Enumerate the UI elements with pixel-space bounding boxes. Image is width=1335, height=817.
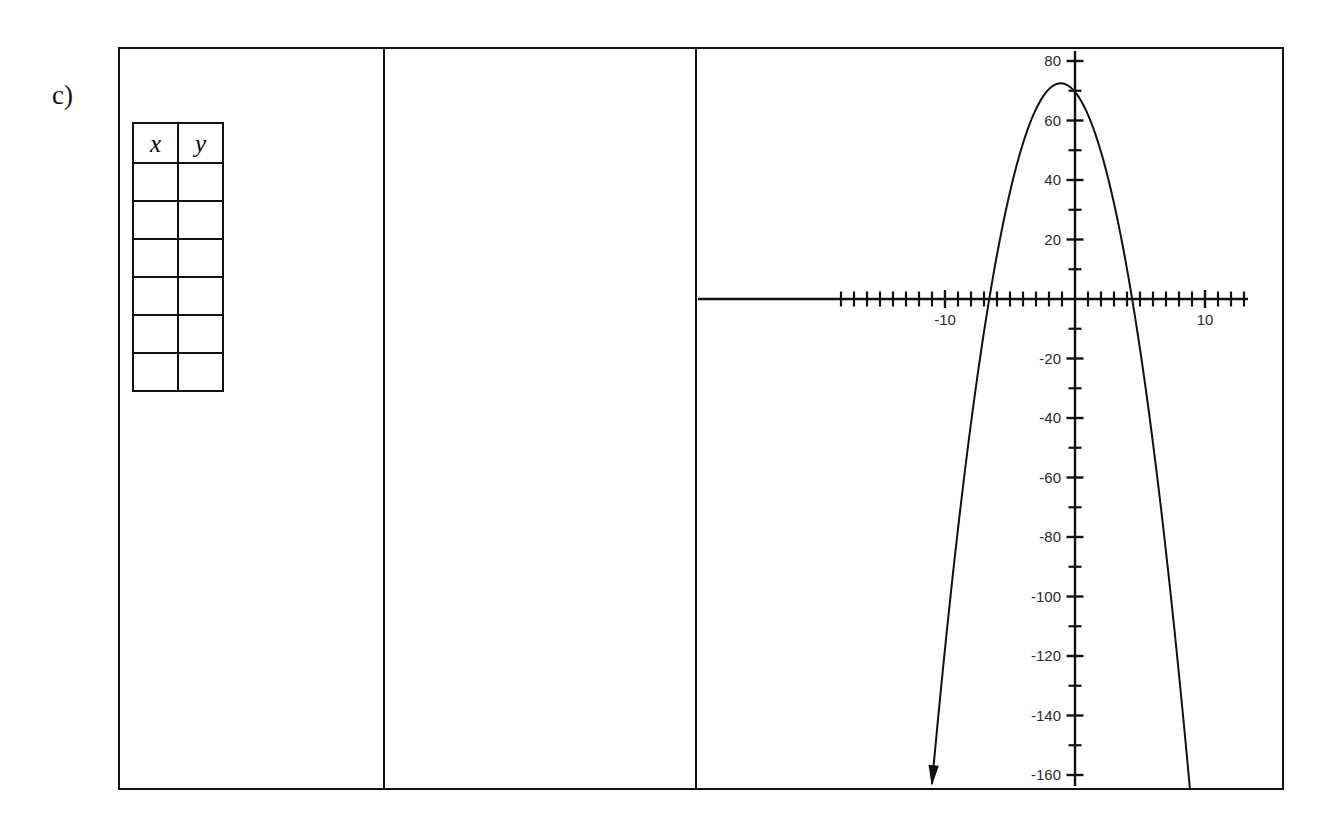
parabola-path xyxy=(932,83,1193,788)
y-tick-label: 80 xyxy=(1044,52,1061,69)
axes-group xyxy=(698,51,1248,786)
y-tick-label: -80 xyxy=(1039,528,1061,545)
work-area-frame: x y xyxy=(118,47,1284,790)
parabola-graph: -101020 80604020-20-40-60-80-100-120-140… xyxy=(697,49,1284,788)
curve-arrow-icon xyxy=(929,765,939,786)
table-cell-x[interactable] xyxy=(133,201,178,239)
x-tick-label: 10 xyxy=(1197,311,1214,328)
y-tick-label: -140 xyxy=(1031,707,1061,724)
table-cell-x[interactable] xyxy=(133,239,178,277)
table-cell-y[interactable] xyxy=(178,315,223,353)
table-panel: x y xyxy=(120,49,383,788)
y-tick-label: -100 xyxy=(1031,588,1061,605)
y-tick-label: -60 xyxy=(1039,469,1061,486)
table-row[interactable] xyxy=(133,201,223,239)
table-cell-x[interactable] xyxy=(133,277,178,315)
parabola-curve xyxy=(929,83,1194,788)
table-cell-y[interactable] xyxy=(178,239,223,277)
xy-value-table[interactable]: x y xyxy=(132,122,224,392)
problem-label: c) xyxy=(52,82,73,109)
table-cell-x[interactable] xyxy=(133,315,178,353)
graph-panel: -101020 80604020-20-40-60-80-100-120-140… xyxy=(697,49,1284,788)
table-cell-x[interactable] xyxy=(133,353,178,391)
table-header-row: x y xyxy=(133,123,223,163)
table-row[interactable] xyxy=(133,353,223,391)
y-tick-label: -120 xyxy=(1031,647,1061,664)
y-tick-label: -20 xyxy=(1039,350,1061,367)
table-row[interactable] xyxy=(133,315,223,353)
y-tick-label: 40 xyxy=(1044,171,1061,188)
table-cell-x[interactable] xyxy=(133,163,178,201)
table-cell-y[interactable] xyxy=(178,201,223,239)
table-cell-y[interactable] xyxy=(178,277,223,315)
work-space-panel[interactable] xyxy=(385,49,695,788)
y-axis-tick-labels: 80604020-20-40-60-80-100-120-140-160 xyxy=(1031,52,1061,783)
y-tick-label: -160 xyxy=(1031,766,1061,783)
table-header-x: x xyxy=(133,123,178,163)
x-tick-label: -10 xyxy=(934,311,956,328)
table-header-y: y xyxy=(178,123,223,163)
y-tick-label: -40 xyxy=(1039,409,1061,426)
y-tick-label: 20 xyxy=(1044,231,1061,248)
table-cell-y[interactable] xyxy=(178,163,223,201)
y-tick-label: 60 xyxy=(1044,112,1061,129)
table-row[interactable] xyxy=(133,163,223,201)
table-row[interactable] xyxy=(133,277,223,315)
table-cell-y[interactable] xyxy=(178,353,223,391)
table-row[interactable] xyxy=(133,239,223,277)
